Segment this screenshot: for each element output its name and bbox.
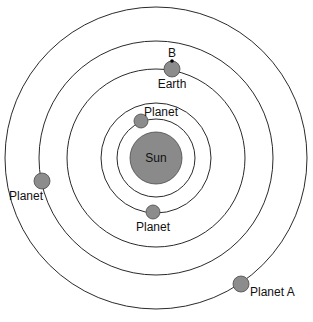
planet-fourth-label: Planet xyxy=(9,189,44,203)
earth xyxy=(164,61,180,77)
earth-label: Earth xyxy=(158,77,187,91)
planet-second xyxy=(146,205,160,219)
diagram-canvas: Sun Planet Planet B Earth Planet Planet … xyxy=(0,0,313,322)
planet-a xyxy=(233,276,249,292)
planet-fourth xyxy=(34,173,50,189)
planet-innermost-label: Planet xyxy=(144,105,179,119)
solar-system-diagram: Sun Planet Planet B Earth Planet Planet … xyxy=(0,0,313,322)
sun-label: Sun xyxy=(145,151,166,165)
planet-second-label: Planet xyxy=(136,220,171,234)
planet-a-label: Planet A xyxy=(250,285,295,299)
point-b-label: B xyxy=(168,46,176,60)
